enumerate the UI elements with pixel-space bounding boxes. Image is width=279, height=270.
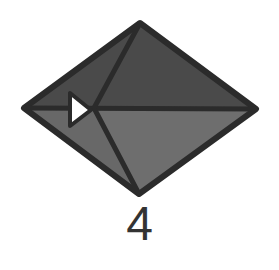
horizontal-crease: [24, 108, 256, 109]
step-number: 4: [0, 200, 279, 248]
upper-face: [24, 23, 256, 109]
